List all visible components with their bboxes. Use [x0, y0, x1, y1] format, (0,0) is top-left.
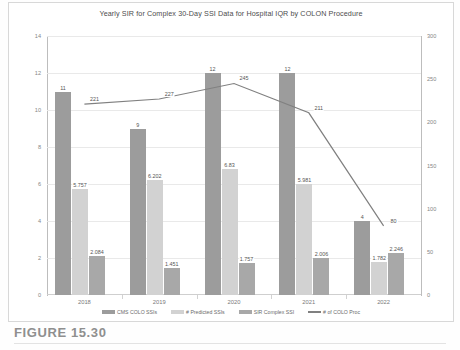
y-axis-left-tick: 6: [17, 181, 41, 187]
legend-swatch-icon: [239, 310, 252, 314]
legend-label: SIR Complex SSI: [254, 309, 294, 315]
legend-label: # Predicted SSIs: [186, 309, 225, 315]
y-axis-right-tick: 50: [427, 249, 453, 255]
legend-swatch-icon: [308, 311, 321, 313]
caption-divider: [14, 343, 446, 344]
legend-item[interactable]: CMS COLO SSIs: [102, 309, 157, 315]
y-axis-right-tick: 300: [427, 33, 453, 39]
x-axis-separator: [346, 295, 347, 299]
legend-label: # of COLO Proc: [323, 309, 360, 315]
line-value-label: 245: [239, 75, 250, 81]
line-value-label: 211: [314, 105, 325, 111]
legend-item[interactable]: SIR Complex SSI: [239, 309, 294, 315]
x-axis-tick-2022: 2022: [346, 299, 421, 305]
line-series-of-colo-proc: [47, 36, 421, 295]
line-value-label: 227: [164, 91, 175, 97]
plot-area: 115.7572.08496.2021.451126.831.757125.98…: [47, 36, 421, 295]
chart-title: Yearly SIR for Complex 30-Day SSI Data f…: [9, 9, 453, 18]
y-axis-right-spine: [421, 36, 422, 296]
y-axis-right-tick: 100: [427, 206, 453, 212]
x-axis-separator: [197, 295, 198, 299]
legend-swatch-icon: [102, 310, 115, 314]
x-axis-tick-2020: 2020: [197, 299, 272, 305]
x-axis-tick-2019: 2019: [122, 299, 197, 305]
line-value-label: 221: [89, 96, 100, 102]
legend-swatch-icon: [171, 310, 184, 314]
y-axis-left-tick: 12: [17, 70, 41, 76]
line-value-label: 80: [390, 218, 398, 224]
y-axis-right-tick: 250: [427, 76, 453, 82]
y-axis-left-tick: 0: [17, 292, 41, 298]
legend-item[interactable]: # Predicted SSIs: [171, 309, 225, 315]
x-axis-tick-2021: 2021: [271, 299, 346, 305]
x-axis-separator: [122, 295, 123, 299]
y-axis-left-tick: 14: [17, 33, 41, 39]
x-axis-tick-2018: 2018: [47, 299, 122, 305]
y-axis-right-tick: 150: [427, 163, 453, 169]
y-axis-left-tick: 2: [17, 255, 41, 261]
chart-container: Yearly SIR for Complex 30-Day SSI Data f…: [8, 2, 454, 322]
figure-caption: FIGURE 15.30: [14, 325, 106, 340]
legend-label: CMS COLO SSIs: [117, 309, 157, 315]
legend-item[interactable]: # of COLO Proc: [308, 309, 360, 315]
y-axis-left-tick: 8: [17, 144, 41, 150]
figure-page: Yearly SIR for Complex 30-Day SSI Data f…: [0, 0, 460, 350]
y-axis-left-tick: 4: [17, 218, 41, 224]
chart-legend: CMS COLO SSIs# Predicted SSIsSIR Complex…: [9, 309, 453, 315]
y-axis-right-tick: 0: [427, 292, 453, 298]
x-axis-separator: [271, 295, 272, 299]
y-axis-right-tick: 200: [427, 119, 453, 125]
y-axis-left-tick: 10: [17, 107, 41, 113]
